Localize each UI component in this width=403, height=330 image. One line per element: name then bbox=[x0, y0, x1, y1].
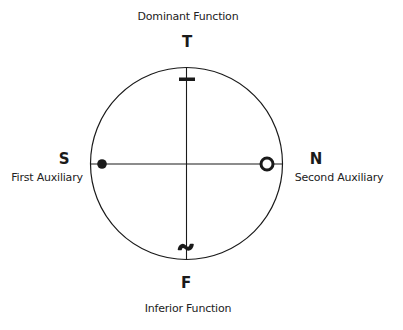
right-caption: Second Auxiliary bbox=[295, 172, 384, 183]
top-caption: Dominant Function bbox=[138, 11, 239, 22]
tilde-marker-icon bbox=[179, 245, 194, 250]
left-letter: S bbox=[59, 152, 70, 167]
filled-dot-marker-icon bbox=[97, 159, 107, 169]
top-letter: T bbox=[182, 35, 192, 50]
bottom-caption: Inferior Function bbox=[145, 303, 232, 314]
bottom-letter: F bbox=[181, 276, 191, 291]
left-caption: First Auxiliary bbox=[11, 172, 83, 183]
function-compass-diagram: Dominant Function T S First Auxiliary N … bbox=[0, 0, 403, 330]
dash-marker-icon bbox=[179, 78, 195, 82]
open-ring-marker-icon bbox=[261, 158, 273, 170]
right-letter: N bbox=[310, 152, 322, 167]
